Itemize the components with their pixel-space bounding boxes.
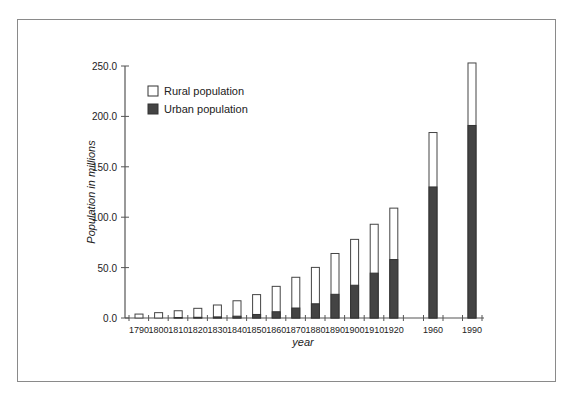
- bar-urban: [468, 125, 476, 318]
- x-tick-label: 1800: [149, 325, 169, 335]
- y-axis: 0.050.0100.0150.0200.0250.0: [92, 61, 129, 324]
- y-axis-title: Population in millions: [85, 140, 97, 244]
- y-tick-label: 50.0: [98, 263, 118, 274]
- x-tick-label: 1830: [207, 325, 227, 335]
- bar-rural: [233, 301, 241, 318]
- bar-rural: [194, 308, 202, 318]
- bar-urban: [233, 316, 241, 318]
- bar-urban: [331, 294, 339, 318]
- bar-rural: [155, 313, 163, 318]
- x-tick-label: 1900: [345, 325, 365, 335]
- x-tick-label: 1990: [462, 325, 482, 335]
- legend-rural-swatch: [148, 86, 158, 96]
- bar-urban: [174, 317, 182, 318]
- x-tick-label: 1790: [129, 325, 149, 335]
- x-tick-label: 1960: [423, 325, 443, 335]
- bar-urban: [429, 187, 437, 318]
- stacked-bar-chart: 0.050.0100.0150.0200.0250.0 179018001810…: [0, 0, 572, 402]
- bar-rural: [213, 305, 221, 318]
- y-tick-label: 200.0: [92, 111, 117, 122]
- x-tick-label: 1890: [325, 325, 345, 335]
- legend-rural-label: Rural population: [164, 85, 244, 97]
- legend-urban-swatch: [148, 104, 158, 114]
- bars: [135, 63, 476, 318]
- bar-urban: [194, 317, 202, 318]
- bar-urban: [272, 312, 280, 318]
- x-tick-label: 1880: [305, 325, 325, 335]
- x-tick-label: 1850: [247, 325, 267, 335]
- x-tick-label: 1910: [364, 325, 384, 335]
- legend-urban-label: Urban population: [164, 103, 248, 115]
- x-tick-label: 1860: [266, 325, 286, 335]
- x-tick-label: 1810: [168, 325, 188, 335]
- y-tick-label: 0.0: [103, 313, 117, 324]
- bar-urban: [351, 285, 359, 318]
- bar-urban: [292, 308, 300, 318]
- x-tick-label: 1870: [286, 325, 306, 335]
- x-axis-title: year: [291, 336, 315, 348]
- bar-rural: [174, 311, 182, 318]
- bar-urban: [213, 317, 221, 318]
- bar-urban: [370, 273, 378, 318]
- legend: Rural population Urban population: [148, 85, 248, 115]
- x-tick-label: 1840: [227, 325, 247, 335]
- bar-rural: [135, 314, 143, 318]
- bar-urban: [311, 304, 319, 318]
- bar-urban: [253, 314, 261, 318]
- x-tick-label: 1820: [188, 325, 208, 335]
- bar-urban: [390, 260, 398, 318]
- y-tick-label: 250.0: [92, 61, 117, 72]
- x-tick-label: 1920: [384, 325, 404, 335]
